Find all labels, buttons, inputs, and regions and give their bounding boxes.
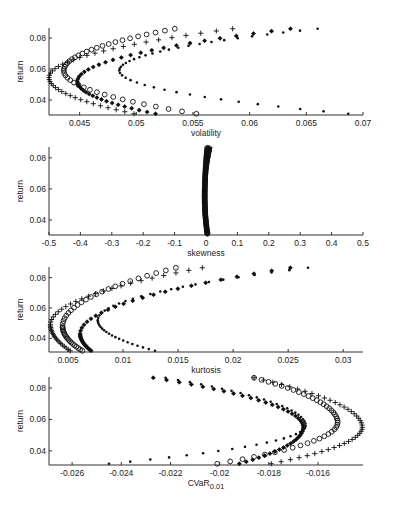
dot-marker (114, 336, 117, 339)
dot-marker (230, 390, 233, 393)
cvar-panel: -0.026-0.024-0.022-0.02-0.018-0.0160.040… (15, 375, 365, 491)
dot-marker (237, 276, 240, 279)
star-marker (116, 103, 120, 107)
circle-marker (145, 273, 150, 278)
plus-marker (156, 37, 161, 42)
circle-marker (106, 287, 111, 292)
star-marker (251, 457, 255, 461)
x-tick-label: 0.05 (128, 118, 145, 128)
circle-marker (94, 292, 99, 297)
x-tick-label: 0.4 (326, 238, 338, 248)
dot-marker (200, 383, 203, 386)
star-marker (202, 39, 206, 43)
x-tick-label: 0.055 (182, 118, 204, 128)
plus-marker (101, 48, 106, 53)
plus-marker (131, 111, 136, 116)
circle-marker (89, 47, 94, 52)
circle-marker (180, 109, 185, 114)
dot-marker (297, 414, 300, 417)
y-tick-label: 0.08 (29, 153, 46, 163)
dot-marker (140, 295, 143, 298)
y-tick-label: 0.04 (29, 95, 46, 105)
dot-marker (187, 45, 190, 48)
dot-marker (124, 76, 127, 79)
x-tick-label: 0.2 (263, 238, 275, 248)
x-tick-label: 0.06 (241, 118, 258, 128)
dot-marker (151, 52, 154, 55)
dot-marker (120, 65, 123, 68)
star-marker (103, 60, 107, 64)
star-marker (264, 400, 268, 404)
x-tick-label: -0.018 (257, 468, 281, 478)
y-tick-label: 0.04 (29, 215, 46, 225)
circle-marker (322, 434, 327, 439)
star-marker (256, 398, 260, 402)
plus-marker (144, 39, 149, 44)
x-tick-label: -0.02 (210, 468, 230, 478)
circle-marker (163, 268, 168, 273)
dot-marker (208, 281, 211, 284)
dot-marker (189, 381, 192, 384)
plus-marker (111, 46, 116, 51)
plus-marker (98, 103, 103, 108)
star-marker (268, 451, 272, 455)
y-tick-label: 0.06 (29, 303, 46, 313)
star-marker (218, 36, 222, 40)
dot-marker (185, 454, 188, 457)
circle-marker (106, 42, 111, 47)
plus-marker (121, 44, 126, 49)
star-marker (290, 412, 294, 416)
dot-marker (316, 27, 319, 30)
circle-marker (100, 43, 105, 48)
circle-marker (94, 45, 99, 50)
plus-marker (333, 400, 338, 405)
star-marker (139, 50, 143, 54)
y-tick-label: 0.08 (29, 273, 46, 283)
plus-marker (105, 105, 110, 110)
star-marker (151, 293, 155, 297)
star-marker (129, 106, 133, 110)
x-tick-label: -0.3 (104, 238, 119, 248)
star-marker (270, 403, 274, 407)
dot-marker (129, 460, 132, 463)
star-marker (110, 101, 114, 105)
x-axis-label: CVaR0.01 (188, 478, 225, 491)
plus-marker (327, 398, 332, 403)
star-marker (276, 405, 280, 409)
dot-marker (148, 348, 151, 351)
series-dot (118, 27, 350, 115)
circle-marker (240, 457, 245, 462)
dot-marker (270, 271, 273, 274)
x-tick-label: 0.3 (294, 238, 306, 248)
x-tick-label: 0.01 (115, 355, 132, 365)
y-axis-label: return (15, 410, 25, 432)
circle-marker (163, 28, 168, 33)
star-marker (176, 287, 180, 291)
axes-frame (49, 377, 363, 465)
star-marker (161, 46, 165, 50)
dot-marker (304, 427, 307, 430)
plus-marker (288, 457, 293, 462)
plus-marker (183, 33, 188, 38)
dot-marker (211, 385, 214, 388)
plus-marker (200, 265, 205, 270)
plus-marker (332, 445, 337, 450)
dot-marker (108, 332, 111, 335)
star-marker (189, 284, 193, 288)
dot-marker (112, 305, 115, 308)
dot-marker (286, 407, 289, 410)
plus-marker (150, 276, 155, 281)
circle-marker (172, 26, 177, 31)
dot-marker (221, 387, 224, 390)
dot-marker (255, 443, 258, 446)
dot-marker (154, 349, 157, 352)
dot-marker (189, 93, 192, 96)
plus-marker (114, 107, 119, 112)
dot-marker (217, 450, 220, 453)
skewness-panel: -0.5-0.4-0.3-0.2-0.100.10.20.30.40.50.04… (15, 145, 369, 258)
dot-marker (122, 64, 125, 67)
star-marker (150, 48, 154, 52)
dot-marker (210, 146, 213, 149)
dot-marker (289, 435, 292, 438)
volatility-panel: 0.0450.050.0550.060.0650.070.040.060.08r… (15, 26, 372, 138)
